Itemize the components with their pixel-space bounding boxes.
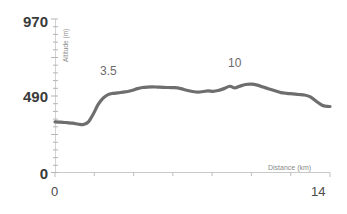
elevation-curve <box>55 84 330 125</box>
y-axis-ticks <box>51 19 58 173</box>
elevation-profile-chart <box>0 0 347 214</box>
y-tick-label-0: 0 <box>8 165 48 182</box>
x-tick-label-0: 0 <box>51 184 58 199</box>
x-tick-label-14: 14 <box>311 184 325 199</box>
annotation-10: 10 <box>228 56 241 70</box>
x-axis-title: Distance (km) <box>268 164 311 171</box>
chart-screenshot: 970 490 0 0 14 Distance (km) Altitude (m… <box>0 0 347 214</box>
annotation-3-5: 3.5 <box>100 64 117 78</box>
y-axis-title: Altitude (m) <box>62 29 69 62</box>
y-tick-label-490: 490 <box>8 88 48 105</box>
y-tick-label-970: 970 <box>8 13 48 30</box>
x-axis-ticks <box>55 173 330 178</box>
